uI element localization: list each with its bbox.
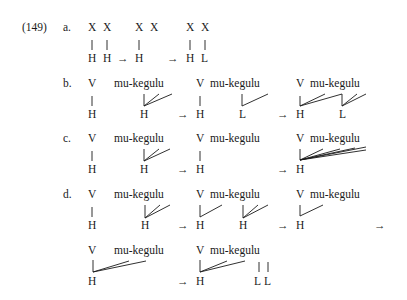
tone-h: H <box>296 163 304 175</box>
verb: V <box>196 132 204 144</box>
tone-l: L <box>254 275 261 287</box>
tone-h: H <box>196 275 204 287</box>
tone-h: H <box>88 163 96 175</box>
row-b-label: b. <box>63 77 72 89</box>
verb: V <box>88 244 96 256</box>
arrow: → <box>277 163 289 175</box>
word: mu-kegulu <box>310 188 360 200</box>
skeleton-x: X <box>88 21 96 33</box>
row-d-label: d. <box>63 188 72 200</box>
word: mu-kegulu <box>114 244 164 256</box>
word: mu-kegulu <box>114 132 164 144</box>
verb: V <box>296 188 304 200</box>
word: mu-kegulu <box>210 188 260 200</box>
verb: V <box>88 188 96 200</box>
tone-h: H <box>186 52 194 64</box>
tone-h: H <box>296 219 304 231</box>
word: mu-kegulu <box>210 132 260 144</box>
tone-h: H <box>140 163 148 175</box>
skeleton-x: X <box>150 21 158 33</box>
arrow: → <box>117 52 129 64</box>
verb: V <box>196 77 204 89</box>
word: mu-kegulu <box>114 188 164 200</box>
arrow: → <box>177 219 189 231</box>
arrow: → <box>277 219 289 231</box>
arrow: → <box>374 219 386 231</box>
row-a-label: a. <box>63 21 71 33</box>
row-c-label: c. <box>63 132 71 144</box>
verb: V <box>196 188 204 200</box>
arrow: → <box>167 52 179 64</box>
tone-h: H <box>196 163 204 175</box>
arrow: → <box>177 163 189 175</box>
word: mu-kegulu <box>114 77 164 89</box>
word: mu-kegulu <box>210 244 260 256</box>
tone-h: H <box>239 219 247 231</box>
word: mu-kegulu <box>310 77 360 89</box>
tone-h: H <box>140 108 148 120</box>
tone-h: H <box>88 108 96 120</box>
word: mu-kegulu <box>310 132 360 144</box>
verb: V <box>196 244 204 256</box>
tone-h: H <box>135 52 143 64</box>
tone-l: L <box>239 108 246 120</box>
word: mu-kegulu <box>210 77 260 89</box>
tone-h: H <box>296 108 304 120</box>
example-number: (149) <box>22 21 47 33</box>
tone-h: H <box>88 275 96 287</box>
arrow: → <box>177 275 189 287</box>
verb: V <box>296 77 304 89</box>
skeleton-x: X <box>103 21 111 33</box>
tone-h: H <box>103 52 111 64</box>
tone-l: L <box>201 52 208 64</box>
tone-h: H <box>141 219 149 231</box>
arrow: → <box>277 108 289 120</box>
skeleton-x: X <box>135 21 143 33</box>
arrow: → <box>177 108 189 120</box>
verb: V <box>88 132 96 144</box>
tone-h: H <box>196 219 204 231</box>
tone-l: L <box>264 275 271 287</box>
tone-h: H <box>88 219 96 231</box>
verb: V <box>88 77 96 89</box>
skeleton-x: X <box>186 21 194 33</box>
tone-h: H <box>196 108 204 120</box>
skeleton-x: X <box>201 21 209 33</box>
verb: V <box>296 132 304 144</box>
tone-h: H <box>88 52 96 64</box>
tone-l: L <box>339 108 346 120</box>
